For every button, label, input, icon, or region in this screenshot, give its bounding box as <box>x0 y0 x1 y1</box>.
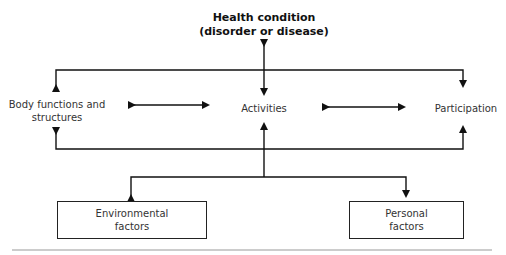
health-condition-title: Health condition <box>180 11 348 25</box>
personal-factors-label: factors <box>385 220 428 233</box>
health-condition-node: Health condition (disorder or disease) <box>180 11 348 39</box>
activities-node: Activities <box>224 102 304 115</box>
personal-label: Personal <box>385 207 428 220</box>
participation-node: Participation <box>426 102 506 115</box>
body-functions-node: Body functions and structures <box>0 98 114 124</box>
health-condition-subtitle: (disorder or disease) <box>180 25 348 39</box>
structures-label: structures <box>0 111 114 124</box>
body-functions-label: Body functions and <box>0 98 114 111</box>
icf-diagram: Health condition (disorder or disease) B… <box>0 0 506 255</box>
environmental-label: Environmental <box>96 207 169 220</box>
environmental-factors-box: Environmental factors <box>57 201 207 239</box>
environmental-factors-label: factors <box>96 220 169 233</box>
personal-factors-box: Personal factors <box>349 201 464 239</box>
